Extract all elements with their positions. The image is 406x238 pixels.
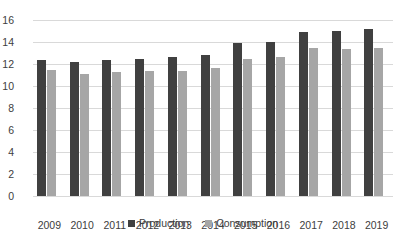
bar-production-2015 — [233, 43, 242, 196]
bar-production-2009 — [37, 60, 46, 196]
legend-swatch-icon — [128, 220, 135, 227]
y-axis-tick-label: 0 — [0, 191, 14, 202]
y-axis-tick-label: 2 — [0, 169, 14, 180]
y-axis-tick-label: 12 — [0, 59, 14, 70]
bar-production-2019 — [364, 29, 373, 196]
bar-production-2016 — [266, 42, 275, 196]
bar-chart: 0246810121416200920102011201220132014201… — [0, 0, 406, 238]
bar-consumption-2014 — [211, 68, 220, 196]
bar-group — [360, 20, 393, 196]
legend-entry-consumption[interactable]: Consumption — [205, 218, 278, 229]
y-axis-tick-label: 6 — [0, 125, 14, 136]
bar-production-2017 — [299, 32, 308, 196]
y-axis-tick-label: 10 — [0, 81, 14, 92]
bar-group — [262, 20, 295, 196]
plot-area: 0246810121416200920102011201220132014201… — [33, 20, 393, 196]
bar-consumption-2015 — [243, 59, 252, 197]
legend-label: Production — [139, 218, 189, 229]
y-axis-tick-label: 8 — [0, 103, 14, 114]
bar-group — [229, 20, 262, 196]
bar-group — [98, 20, 131, 196]
gridline — [33, 196, 393, 197]
bar-consumption-2018 — [342, 49, 351, 196]
y-axis-tick-label: 16 — [0, 15, 14, 26]
bar-group — [33, 20, 66, 196]
bar-production-2011 — [102, 60, 111, 196]
bar-consumption-2011 — [112, 72, 121, 196]
bar-group — [328, 20, 361, 196]
bar-production-2012 — [135, 59, 144, 197]
legend-label: Consumption — [216, 218, 278, 229]
bar-group — [295, 20, 328, 196]
bar-consumption-2019 — [374, 48, 383, 197]
y-axis-tick-label: 4 — [0, 147, 14, 158]
bar-group — [66, 20, 99, 196]
chart-legend: ProductionConsumption — [0, 218, 406, 229]
bar-consumption-2010 — [80, 74, 89, 196]
bar-group — [164, 20, 197, 196]
bar-consumption-2012 — [145, 71, 154, 196]
bar-consumption-2017 — [309, 48, 318, 197]
legend-entry-production[interactable]: Production — [128, 218, 189, 229]
bar-consumption-2013 — [178, 71, 187, 196]
bar-consumption-2016 — [276, 57, 285, 196]
bar-group — [197, 20, 230, 196]
bar-production-2010 — [70, 62, 79, 196]
legend-swatch-icon — [205, 220, 212, 227]
bar-consumption-2009 — [47, 70, 56, 197]
bar-production-2018 — [332, 31, 341, 196]
bar-group — [131, 20, 164, 196]
bar-production-2014 — [201, 55, 210, 196]
y-axis-tick-label: 14 — [0, 37, 14, 48]
bar-production-2013 — [168, 57, 177, 196]
